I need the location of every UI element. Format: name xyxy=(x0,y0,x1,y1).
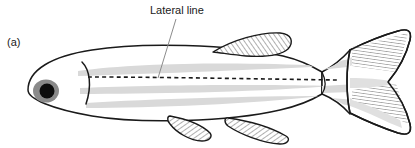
caudal-fin xyxy=(347,26,414,134)
lateral-line-label: Lateral line xyxy=(150,4,204,16)
eye xyxy=(33,80,59,103)
fish-anatomy-illustration: Lateral line (a) xyxy=(0,0,415,148)
panel-label: (a) xyxy=(7,36,20,48)
dorsal-fin-shape xyxy=(213,33,291,56)
body xyxy=(28,45,332,121)
anal-fin-shape xyxy=(225,118,288,144)
body-outline xyxy=(28,45,322,121)
dorsal-fin xyxy=(213,33,291,56)
figure-panel: Lateral line (a) xyxy=(0,0,415,148)
anal-fin xyxy=(225,118,288,144)
eye-pupil xyxy=(40,84,55,99)
